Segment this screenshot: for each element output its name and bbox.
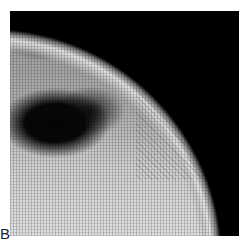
panel-label: B (0, 226, 10, 242)
vector-field-image (10, 11, 239, 236)
